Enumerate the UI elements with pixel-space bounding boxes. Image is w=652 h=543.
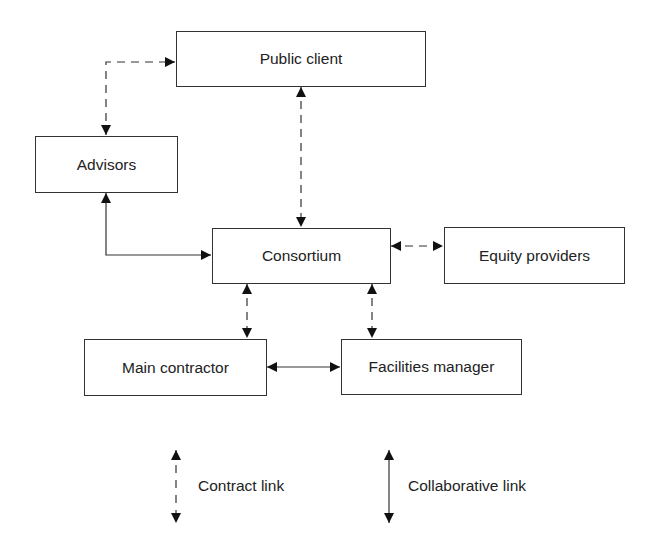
node-label: Advisors (77, 156, 136, 174)
node-public-client: Public client (176, 31, 426, 87)
node-equity-providers: Equity providers (444, 227, 625, 284)
legend-collaborative-label: Collaborative link (408, 477, 526, 495)
node-consortium: Consortium (212, 228, 391, 284)
legend-contract-label: Contract link (198, 477, 284, 495)
node-main-contractor: Main contractor (84, 339, 267, 396)
node-facilities-manager: Facilities manager (341, 339, 522, 395)
link-advisors-consortium (106, 193, 211, 255)
node-label: Main contractor (122, 359, 229, 377)
node-label: Facilities manager (369, 358, 495, 376)
node-label: Public client (260, 50, 343, 68)
node-label: Consortium (262, 247, 341, 265)
node-label: Equity providers (479, 247, 590, 265)
link-advisors-public-client (106, 62, 175, 135)
node-advisors: Advisors (35, 136, 178, 193)
